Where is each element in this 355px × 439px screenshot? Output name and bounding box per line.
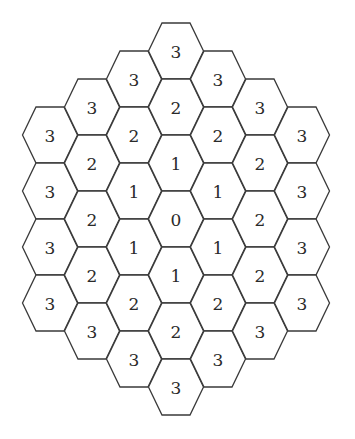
hex-distance-label: 1 (171, 266, 182, 286)
hex-distance-label: 2 (129, 294, 140, 314)
hex-distance-label: 3 (297, 294, 308, 314)
hex-distance-label: 1 (213, 182, 224, 202)
hex-grid-diagram: 3333322233211233210123321123322233333 (0, 0, 355, 439)
hex-distance-label: 2 (213, 294, 224, 314)
hex-distance-label: 3 (129, 350, 140, 370)
hex-distance-label: 3 (87, 98, 98, 118)
hex-distance-label: 2 (171, 98, 182, 118)
hex-distance-label: 3 (45, 294, 56, 314)
hex-distance-label: 3 (171, 378, 182, 398)
hex-distance-label: 2 (213, 126, 224, 146)
hex-distance-label: 1 (213, 238, 224, 258)
hex-distance-label: 0 (171, 210, 182, 230)
hex-distance-label: 2 (171, 322, 182, 342)
hex-distance-label: 3 (255, 322, 266, 342)
hex-distance-label: 2 (255, 154, 266, 174)
hex-distance-label: 2 (255, 210, 266, 230)
hex-distance-label: 2 (87, 266, 98, 286)
hex-distance-label: 3 (45, 182, 56, 202)
hex-distance-label: 1 (129, 182, 140, 202)
hex-distance-label: 1 (129, 238, 140, 258)
hex-distance-label: 3 (297, 182, 308, 202)
hex-distance-label: 3 (87, 322, 98, 342)
hex-distance-label: 2 (87, 210, 98, 230)
hex-distance-label: 1 (171, 154, 182, 174)
hex-distance-label: 3 (213, 70, 224, 90)
hex-distance-label: 3 (129, 70, 140, 90)
hex-distance-label: 2 (87, 154, 98, 174)
hex-distance-label: 3 (297, 126, 308, 146)
hex-distance-label: 3 (45, 126, 56, 146)
hex-distance-label: 3 (213, 350, 224, 370)
hex-distance-label: 3 (171, 42, 182, 62)
hex-distance-label: 3 (297, 238, 308, 258)
hex-distance-label: 3 (255, 98, 266, 118)
hex-distance-label: 2 (129, 126, 140, 146)
hex-distance-label: 2 (255, 266, 266, 286)
hex-distance-label: 3 (45, 238, 56, 258)
